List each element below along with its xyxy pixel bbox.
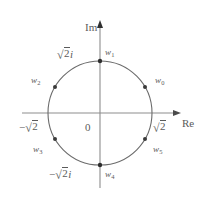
complex-plane-figure: Im Re 0 √2i − √2i √2 − √2 w0 w1 w2 w3 w xyxy=(0,0,205,203)
imaginary-axis-label: Im xyxy=(85,22,97,33)
point-w3 xyxy=(53,137,57,141)
root-label-w3: w3 xyxy=(33,145,42,154)
origin-label: 0 xyxy=(85,122,91,133)
tick-label-positive-real: √2 xyxy=(153,121,166,133)
radicand-positive-real: 2 xyxy=(160,120,167,132)
sqrt-sign-icon: √ xyxy=(57,48,64,62)
point-w2 xyxy=(53,85,57,89)
real-axis xyxy=(22,110,181,116)
root-label-w4: w4 xyxy=(105,170,114,179)
sqrt-sign-icon-negative-imaginary: √ xyxy=(55,168,62,182)
radicand-positive-imaginary: 2 xyxy=(64,47,71,59)
imaginary-axis-arrow-icon xyxy=(97,20,103,28)
imaginary-unit-positive: i xyxy=(70,48,73,60)
point-w1 xyxy=(98,59,102,63)
sqrt-sign-icon-negative-real: √ xyxy=(25,121,32,135)
tick-label-positive-imaginary: √2i xyxy=(57,48,73,60)
real-axis-arrow-icon xyxy=(173,110,181,116)
tick-label-negative-real: − √2 xyxy=(19,121,38,133)
root-label-w2: w2 xyxy=(31,76,40,85)
figure-canvas xyxy=(0,0,205,203)
point-w4 xyxy=(98,163,102,167)
root-label-w0: w0 xyxy=(155,76,164,85)
radicand-negative-imaginary: 2 xyxy=(62,167,69,179)
tick-label-negative-imaginary: − √2i xyxy=(49,168,71,180)
sqrt-sign-icon-positive-real: √ xyxy=(153,121,160,135)
root-label-w1: w1 xyxy=(105,48,114,57)
real-axis-label: Re xyxy=(182,118,194,129)
root-label-w5: w5 xyxy=(153,145,162,154)
imaginary-unit-negative: i xyxy=(68,168,71,180)
radicand-negative-real: 2 xyxy=(32,120,39,132)
point-w5 xyxy=(143,137,147,141)
point-w0 xyxy=(143,85,147,89)
